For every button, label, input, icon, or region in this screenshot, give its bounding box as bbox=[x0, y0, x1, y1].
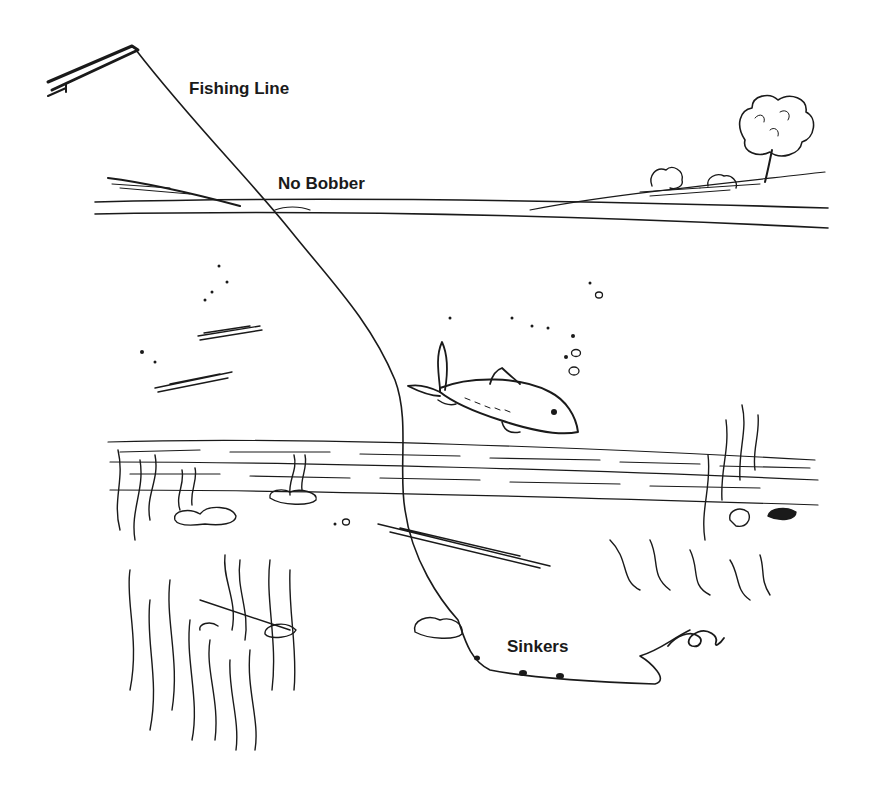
fish bbox=[408, 342, 578, 433]
illustration bbox=[0, 0, 873, 807]
tree bbox=[740, 96, 814, 182]
rocks bbox=[175, 490, 796, 638]
fishing-line-label: Fishing Line bbox=[189, 79, 289, 99]
no-bobber-label: No Bobber bbox=[278, 174, 365, 194]
bait bbox=[668, 631, 724, 646]
bubble-rings bbox=[343, 292, 603, 525]
sinkers-label: Sinkers bbox=[507, 637, 568, 657]
shadow-strokes bbox=[155, 326, 550, 568]
bushes bbox=[651, 168, 736, 189]
sinkers bbox=[474, 656, 564, 680]
water-surface bbox=[95, 200, 828, 228]
lake-bottom bbox=[108, 440, 818, 505]
fishing-diagram: Fishing Line No Bobber Sinkers bbox=[0, 0, 873, 807]
fishing-rod bbox=[48, 46, 138, 96]
fishing-line bbox=[136, 50, 690, 684]
bubbles bbox=[140, 265, 592, 526]
weeds bbox=[117, 405, 770, 750]
